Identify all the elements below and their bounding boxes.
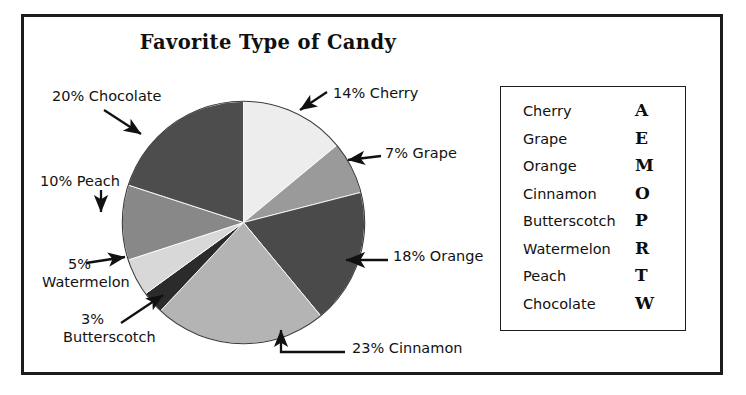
legend-row: PeachT <box>523 265 673 293</box>
legend-item-name: Watermelon <box>523 241 635 257</box>
chart-screenshot: Favorite Type of Candy 20% Ch <box>0 0 746 395</box>
legend-item-letter: P <box>635 210 661 230</box>
legend-item-name: Peach <box>523 268 635 284</box>
legend-item-letter: A <box>635 100 661 120</box>
legend-item-letter: O <box>635 183 661 203</box>
callout-butterscotch-percent: 3% <box>63 311 104 329</box>
callout-cherry: 14% Cherry <box>333 85 418 102</box>
legend-row: CinnamonO <box>523 183 673 211</box>
callout-butterscotch-name: Butterscotch <box>63 329 156 347</box>
legend-box: CherryAGrapeEOrangeMCinnamonOButterscotc… <box>500 86 686 331</box>
pie-chart-svg <box>121 100 366 345</box>
page-title: Favorite Type of Candy <box>118 31 418 54</box>
legend-item-name: Cinnamon <box>523 186 635 202</box>
legend-item-name: Butterscotch <box>523 213 635 229</box>
legend-item-name: Grape <box>523 131 635 147</box>
legend-list: CherryAGrapeEOrangeMCinnamonOButterscotc… <box>523 100 673 320</box>
callout-watermelon-percent: 5% <box>42 256 91 274</box>
legend-row: OrangeM <box>523 155 673 183</box>
legend-item-letter: R <box>635 238 661 258</box>
legend-row: ChocolateW <box>523 293 673 321</box>
callout-watermelon-name: Watermelon <box>42 274 130 292</box>
legend-item-letter: T <box>635 265 661 285</box>
legend-row: ButterscotchP <box>523 210 673 238</box>
pie-chart <box>121 100 366 345</box>
callout-chocolate: 20% Chocolate <box>52 88 161 105</box>
callout-grape: 7% Grape <box>385 145 457 162</box>
legend-row: GrapeE <box>523 128 673 156</box>
legend-item-name: Orange <box>523 158 635 174</box>
legend-row: WatermelonR <box>523 238 673 266</box>
callout-orange: 18% Orange <box>393 248 483 265</box>
legend-row: CherryA <box>523 100 673 128</box>
legend-item-letter: W <box>635 293 661 313</box>
legend-item-letter: E <box>635 128 661 148</box>
callout-watermelon: 5% Watermelon <box>42 256 130 291</box>
legend-item-letter: M <box>635 155 661 175</box>
legend-item-name: Cherry <box>523 103 635 119</box>
callout-cinnamon: 23% Cinnamon <box>352 340 462 357</box>
callout-butterscotch: 3% Butterscotch <box>63 311 156 346</box>
callout-peach: 10% Peach <box>40 173 120 190</box>
legend-item-name: Chocolate <box>523 296 635 312</box>
